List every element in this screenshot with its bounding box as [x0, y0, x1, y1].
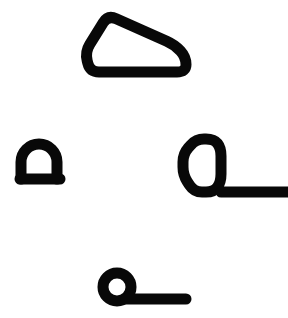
glyph-svg	[0, 0, 288, 318]
canvas-background	[0, 0, 288, 318]
image-canvas	[0, 0, 288, 318]
